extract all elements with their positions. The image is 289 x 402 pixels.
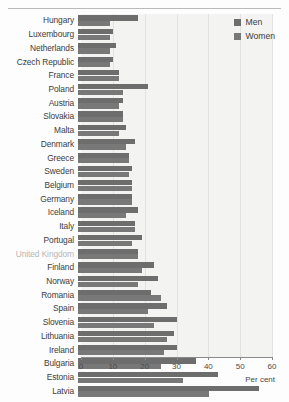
bar-group bbox=[78, 41, 289, 55]
legend-item-women[interactable]: Women bbox=[234, 31, 275, 41]
bar-rows: HungaryLuxembourgNetherlandsCzech Republ… bbox=[0, 14, 289, 359]
x-tick-label: 30 bbox=[172, 362, 181, 371]
category-label: Sweden bbox=[0, 167, 78, 176]
category-label: Lithuania bbox=[0, 332, 78, 341]
category-label: Czech Republic bbox=[0, 58, 78, 67]
bar-women bbox=[78, 117, 123, 122]
bar-men bbox=[78, 57, 113, 62]
chart-legend: Men Women bbox=[234, 17, 275, 41]
category-label: Latvia bbox=[0, 387, 78, 396]
x-tick-label: 60 bbox=[268, 362, 277, 371]
bar-row: United Kingdom bbox=[0, 247, 289, 261]
bar-row: Spain bbox=[0, 302, 289, 316]
bar-women bbox=[78, 213, 126, 218]
chart-figure: HungaryLuxembourgNetherlandsCzech Republ… bbox=[0, 0, 289, 402]
x-tick bbox=[113, 357, 114, 360]
bar-row: Belgium bbox=[0, 179, 289, 193]
bar-row: Iceland bbox=[0, 206, 289, 220]
category-label: United Kingdom bbox=[0, 250, 78, 259]
bar-men bbox=[78, 221, 135, 226]
legend-item-men[interactable]: Men bbox=[234, 17, 275, 27]
bar-group bbox=[78, 275, 289, 289]
category-label: Malta bbox=[0, 126, 78, 135]
bar-group bbox=[78, 247, 289, 261]
bar-men bbox=[78, 386, 259, 391]
bar-women bbox=[78, 48, 110, 53]
bar-row: Portugal bbox=[0, 234, 289, 248]
bar-group bbox=[78, 69, 289, 83]
category-label: Norway bbox=[0, 277, 78, 286]
bar-row: Slovakia bbox=[0, 110, 289, 124]
bar-men bbox=[78, 372, 218, 377]
bar-group bbox=[78, 137, 289, 151]
bar-row: Norway bbox=[0, 275, 289, 289]
category-label: Bulgaria bbox=[0, 359, 78, 368]
bar-women bbox=[78, 391, 209, 396]
x-tick bbox=[145, 357, 146, 360]
bar-women bbox=[78, 199, 132, 204]
category-label: Greece bbox=[0, 154, 78, 163]
bar-group bbox=[78, 316, 289, 330]
bar-row: Germany bbox=[0, 192, 289, 206]
bar-women bbox=[78, 350, 164, 355]
bar-men bbox=[78, 317, 177, 322]
x-tick bbox=[177, 357, 178, 360]
bar-men bbox=[78, 84, 148, 89]
bar-men bbox=[78, 15, 138, 20]
x-tick bbox=[272, 357, 273, 360]
category-label: Portugal bbox=[0, 236, 78, 245]
bar-men bbox=[78, 153, 129, 158]
bar-group bbox=[78, 192, 289, 206]
bar-women bbox=[78, 144, 126, 149]
category-label: Estonia bbox=[0, 373, 78, 382]
plot-area: HungaryLuxembourgNetherlandsCzech Republ… bbox=[0, 14, 289, 359]
bar-group bbox=[78, 384, 289, 398]
bar-row: Austria bbox=[0, 96, 289, 110]
x-tick-label: 20 bbox=[140, 362, 149, 371]
bar-group bbox=[78, 220, 289, 234]
x-tick bbox=[240, 357, 241, 360]
bar-men bbox=[78, 235, 142, 240]
bar-women bbox=[78, 254, 138, 259]
category-label: France bbox=[0, 71, 78, 80]
bar-men bbox=[78, 303, 167, 308]
bar-row: France bbox=[0, 69, 289, 83]
bar-men bbox=[78, 111, 123, 116]
category-label: Luxembourg bbox=[0, 30, 78, 39]
category-label: Denmark bbox=[0, 140, 78, 149]
bar-group bbox=[78, 55, 289, 69]
bar-women bbox=[78, 241, 132, 246]
legend-swatch-men bbox=[234, 19, 241, 26]
bar-group bbox=[78, 330, 289, 344]
bar-women bbox=[78, 76, 119, 81]
bar-row: Romania bbox=[0, 288, 289, 302]
bar-group bbox=[78, 179, 289, 193]
bar-group bbox=[78, 261, 289, 275]
bar-men bbox=[78, 98, 123, 103]
category-label: Spain bbox=[0, 304, 78, 313]
bar-women bbox=[78, 268, 142, 273]
x-tick-label: 0 bbox=[79, 362, 83, 371]
bar-row: Latvia bbox=[0, 384, 289, 398]
category-label: Austria bbox=[0, 99, 78, 108]
bar-women bbox=[78, 337, 167, 342]
category-label: Germany bbox=[0, 195, 78, 204]
category-label: Finland bbox=[0, 263, 78, 272]
bar-row: Malta bbox=[0, 124, 289, 138]
bar-group bbox=[78, 234, 289, 248]
bar-group bbox=[78, 124, 289, 138]
category-label: Slovenia bbox=[0, 318, 78, 327]
bar-men bbox=[78, 194, 132, 199]
legend-label-women: Women bbox=[246, 31, 275, 41]
bar-row: Denmark bbox=[0, 137, 289, 151]
bar-women bbox=[78, 103, 119, 108]
bar-men bbox=[78, 70, 119, 75]
category-label: Ireland bbox=[0, 346, 78, 355]
bar-row: Finland bbox=[0, 261, 289, 275]
bar-men bbox=[78, 139, 135, 144]
x-tick-label: 50 bbox=[236, 362, 245, 371]
legend-swatch-women bbox=[234, 33, 241, 40]
bar-group bbox=[78, 302, 289, 316]
bar-row: Ireland bbox=[0, 343, 289, 357]
category-label: Poland bbox=[0, 85, 78, 94]
